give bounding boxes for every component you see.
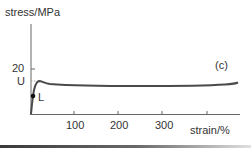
x-tick-label-100: 100 xyxy=(66,119,84,131)
x-tick-label-300: 300 xyxy=(155,119,173,131)
bottom-divider xyxy=(0,145,251,148)
x-axis-label: strain/% xyxy=(190,124,230,136)
y-tick-label-20: 20 xyxy=(12,62,24,74)
panel-label: (c) xyxy=(215,59,228,71)
l-label: L xyxy=(38,91,44,103)
y-axis-label: stress/MPa xyxy=(5,6,61,18)
u-label: U xyxy=(17,75,25,87)
x-tick-label-200: 200 xyxy=(110,119,128,131)
stress-strain-chart: stress/MPa 20 U L (c) 100 200 300 strain… xyxy=(0,0,251,148)
stress-strain-curve xyxy=(31,81,238,114)
point-l-marker xyxy=(31,94,36,99)
